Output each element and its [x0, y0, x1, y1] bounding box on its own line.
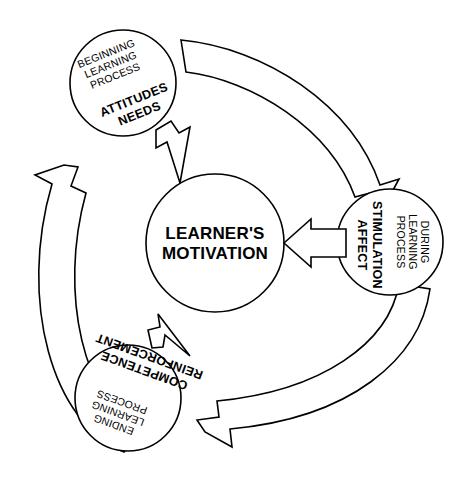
arrow-during-to-center [284, 219, 346, 267]
center-label-line2: MOTIVATION [162, 244, 268, 263]
node-circle-center[interactable] [146, 174, 284, 312]
during-factor-line2: AFFECT [355, 219, 369, 270]
during-phase-line3: PROCESS [395, 216, 407, 269]
during-phase-line2: LEARNING [407, 214, 419, 269]
node-during-phase-label: DURING LEARNING PROCESS [395, 214, 431, 269]
during-factor-line1: STIMULATION [370, 201, 384, 289]
center-label-group: LEARNER'S MOTIVATION [162, 224, 268, 263]
arrow-beginning-to-center [156, 121, 190, 183]
center-label-line1: LEARNER'S [165, 224, 264, 243]
arrow-ending-to-center [148, 314, 190, 356]
during-phase-line1: DURING [419, 221, 431, 264]
diagram-canvas: LEARNER'S MOTIVATION BEGINNING LEARNING … [0, 0, 472, 480]
cycle-diagram: LEARNER'S MOTIVATION BEGINNING LEARNING … [0, 0, 472, 480]
